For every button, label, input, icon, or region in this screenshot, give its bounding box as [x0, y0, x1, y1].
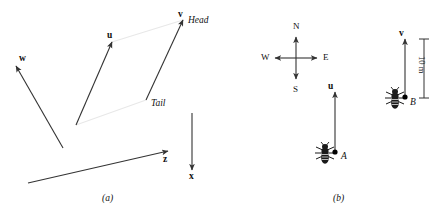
head-annotation: Head	[188, 16, 209, 26]
vector-arrow-z	[28, 151, 168, 183]
vector-label-u: u	[107, 31, 112, 41]
figure-container: w u v z x Head Tail (a) N E S W u A v B …	[0, 0, 440, 219]
insect-b-position-dot	[402, 94, 407, 99]
guide-heads	[112, 20, 183, 42]
parallelogram-guides	[76, 20, 183, 125]
compass-label-west: W	[261, 53, 270, 62]
panel-a-caption: (a)	[102, 194, 113, 204]
panel-b-caption: (b)	[333, 194, 344, 204]
vector-label-z: z	[163, 155, 167, 165]
vector-label-v: v	[178, 10, 183, 20]
vector-label-x: x	[189, 172, 194, 182]
insect-b-glyph	[385, 87, 405, 109]
insect-a-vector-label-u: u	[328, 82, 333, 92]
insect-a-label: A	[341, 152, 347, 162]
compass-label-south: S	[293, 85, 298, 94]
figure-artwork	[0, 0, 440, 219]
vector-arrow-v	[146, 20, 183, 100]
scale-label-10m: 10 m	[418, 56, 427, 73]
insect-b-vector-label-v: v	[399, 29, 404, 39]
compass-label-north: N	[293, 22, 300, 31]
insect-b-label: B	[410, 98, 416, 108]
guide-tails	[76, 100, 146, 125]
vector-arrow-u	[76, 42, 112, 125]
tail-annotation: Tail	[151, 99, 165, 109]
compass-label-east: E	[323, 53, 329, 62]
vector-arrow-w	[16, 66, 63, 148]
compass-rose	[275, 37, 317, 79]
vector-label-w: w	[19, 54, 26, 64]
insect-a-glyph	[315, 142, 335, 164]
insect-glyphs	[315, 87, 408, 164]
insect-a-position-dot	[332, 149, 337, 154]
